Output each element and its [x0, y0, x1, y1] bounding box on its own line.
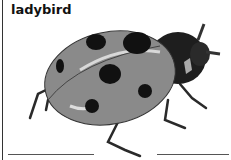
answer-line-right: [157, 154, 229, 155]
ladybird-illustration: [0, 0, 231, 160]
answer-line-left: [8, 154, 94, 155]
